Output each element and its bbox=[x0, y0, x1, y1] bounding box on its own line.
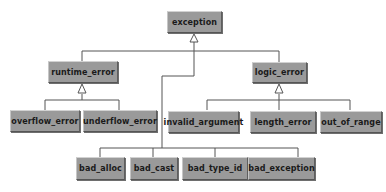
node-bad-alloc: bad_alloc bbox=[76, 157, 125, 180]
node-length-error: length_error bbox=[250, 111, 316, 133]
node-bad-cast: bad_cast bbox=[130, 157, 178, 180]
inheritance-arrow-icon bbox=[190, 34, 198, 42]
node-out-of-range: out_of_range bbox=[320, 111, 382, 133]
node-invalid-argument: invalid_argument bbox=[168, 111, 239, 133]
node-overflow-error: overflow_error bbox=[10, 110, 80, 132]
node-logic-error: logic_error bbox=[252, 62, 307, 83]
node-bad-type-id: bad_type_id bbox=[182, 157, 248, 180]
node-exception: exception bbox=[167, 11, 222, 33]
inheritance-arrow-icon bbox=[78, 84, 86, 93]
node-bad-exception: bad_exception bbox=[248, 157, 315, 180]
exception-hierarchy-diagram: exception runtime_error logic_error over… bbox=[0, 0, 386, 192]
inheritance-arrow-icon bbox=[275, 84, 283, 93]
node-underflow-error: underflow_error bbox=[83, 110, 157, 132]
node-runtime-error: runtime_error bbox=[48, 61, 118, 83]
